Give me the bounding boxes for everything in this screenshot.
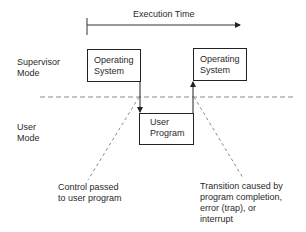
user-program-line2: Program — [150, 128, 185, 139]
user-mode-label: User Mode — [17, 122, 40, 144]
user-program-box-text: User Program — [150, 117, 185, 139]
supervisor-mode-label: Supervisor Mode — [17, 57, 60, 79]
execution-time-label: Execution Time — [133, 9, 195, 20]
annotation-control-passed: Control passed to user program — [58, 182, 122, 204]
os-second-line1: Operating — [200, 54, 240, 65]
annotation-transition-line4: interrupt — [200, 214, 283, 225]
supervisor-mode-label-line1: Supervisor — [17, 57, 60, 68]
annotation-transition-line3: error (trap), or — [200, 203, 283, 214]
mode-transition-diagram: Execution Time Supervisor Mode User Mode… — [0, 0, 306, 232]
leader-line-control-passed — [88, 97, 139, 180]
user-mode-label-line2: Mode — [17, 133, 40, 144]
annotation-control-passed-line2: to user program — [58, 193, 122, 204]
operating-system-box-second: Operating System — [193, 48, 247, 81]
annotation-transition-line1: Transition caused by — [200, 181, 283, 192]
operating-system-box-first-text: Operating System — [94, 55, 134, 77]
execution-time-axis — [87, 18, 240, 35]
os-second-line2: System — [200, 65, 240, 76]
os-first-line2: System — [94, 66, 134, 77]
annotation-control-passed-line1: Control passed — [58, 182, 122, 193]
os-first-line1: Operating — [94, 55, 134, 66]
annotation-transition: Transition caused by program completion,… — [200, 181, 283, 225]
annotation-transition-line2: program completion, — [200, 192, 283, 203]
leader-line-transition — [194, 97, 243, 178]
user-mode-label-line1: User — [17, 122, 40, 133]
user-program-line1: User — [150, 117, 185, 128]
user-program-box: User Program — [139, 113, 194, 145]
operating-system-box-first: Operating System — [87, 49, 141, 82]
supervisor-mode-label-line2: Mode — [17, 68, 60, 79]
operating-system-box-second-text: Operating System — [200, 54, 240, 76]
